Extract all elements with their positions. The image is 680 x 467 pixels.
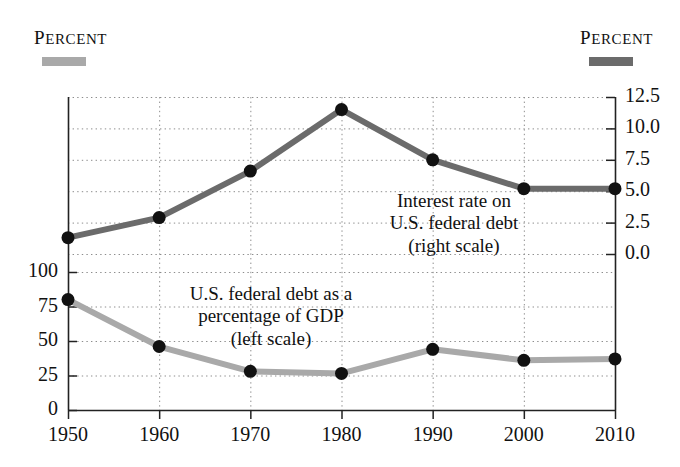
xtick-2000: 2000 [484,424,564,444]
data-point [335,103,348,116]
data-point [517,354,530,367]
annotation-left-line-2: percentage of GDP [148,305,394,327]
data-point [62,293,75,306]
annotation-left-series: U.S. federal debt as a percentage of GDP… [148,283,394,350]
data-point [609,352,622,365]
xtick-2010: 2010 [575,424,655,444]
ytick-right-12.5: 12.5 [625,85,680,105]
data-point [609,182,622,195]
ytick-left-25: 25 [0,364,58,384]
chart-container: PERCENT PERCENT 02550751000.02.55.07.510… [0,0,680,467]
annotation-right-line-1: Interest rate on [346,190,562,212]
data-point [244,365,257,378]
annotation-left-line-3: (left scale) [148,328,394,350]
xtick-1960: 1960 [119,424,199,444]
xtick-1980: 1980 [302,424,382,444]
data-point [426,343,439,356]
annotation-right-line-2: U.S. federal debt [346,212,562,234]
data-point [426,153,439,166]
chart-plot-area [0,0,680,467]
ytick-left-50: 50 [0,329,58,349]
ytick-right-0.0: 0.0 [625,242,680,262]
data-point [335,367,348,380]
xtick-1990: 1990 [393,424,473,444]
ytick-right-10.0: 10.0 [625,116,680,136]
ytick-left-0: 0 [0,398,58,418]
ytick-right-7.5: 7.5 [625,148,680,168]
data-point [244,165,257,178]
data-point [62,231,75,244]
ytick-left-75: 75 [0,295,58,315]
ytick-right-5.0: 5.0 [625,179,680,199]
annotation-right-line-3: (right scale) [346,235,562,257]
ytick-left-100: 100 [0,260,58,280]
annotation-left-line-1: U.S. federal debt as a [148,283,394,305]
annotation-right-series: Interest rate on U.S. federal debt (righ… [346,190,562,257]
xtick-1970: 1970 [210,424,290,444]
xtick-1950: 1950 [28,424,108,444]
data-point [153,211,166,224]
ytick-right-2.5: 2.5 [625,211,680,231]
